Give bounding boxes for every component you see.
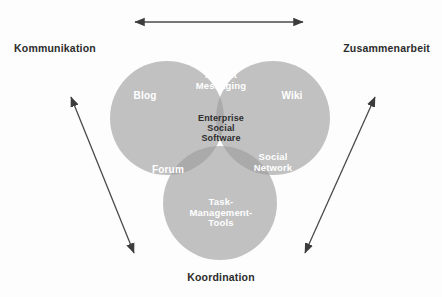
- venn-diagram-figure: Kommunikation Zusammenarbeit Koordinatio…: [0, 0, 442, 297]
- circle-koordination: [163, 146, 277, 260]
- venn-circles-group: [110, 61, 330, 260]
- axis-label-koordination: Koordination: [0, 271, 442, 283]
- axis-label-zusammenarbeit: Zusammenarbeit: [343, 42, 430, 54]
- axis-label-kommunikation: Kommunikation: [14, 42, 96, 54]
